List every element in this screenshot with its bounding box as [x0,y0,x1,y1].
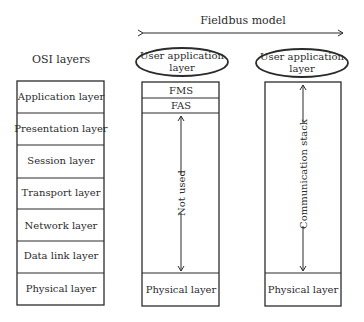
osi-layer-session: Session layer [27,155,95,166]
fms-layer: FMS [169,85,193,96]
fieldbus-right-stack: User application layer Communication sta… [256,49,348,306]
osi-layer-transport: Transport layer [22,187,101,198]
user-application-label-line2: layer [289,63,315,74]
fas-layer: FAS [171,100,191,111]
osi-layer-network: Network layer [25,220,98,231]
communication-stack-label: Communication stack [298,118,309,229]
fieldbus-right-physical-layer: Physical layer [268,284,339,295]
osi-layer-data-link: Data link layer [24,250,99,261]
osi-layers-title: OSI layers [32,53,90,66]
osi-stack: Application layer Presentation layer Ses… [14,81,107,305]
fieldbus-left-stack: User application layer FMS FAS Not used … [136,48,228,306]
user-application-label-line1: User application [260,51,344,62]
not-used-label: Not used [176,169,187,215]
osi-layer-application: Application layer [17,91,105,102]
fieldbus-model-title: Fieldbus model [200,14,286,27]
osi-vs-fieldbus-diagram: Fieldbus model OSI layers Application la… [0,0,364,322]
fieldbus-left-physical-layer: Physical layer [146,284,217,295]
osi-layer-presentation: Presentation layer [14,123,107,134]
user-application-label-line1: User application [140,50,224,61]
user-application-label-line2: layer [169,62,195,73]
osi-layer-physical: Physical layer [26,283,97,294]
